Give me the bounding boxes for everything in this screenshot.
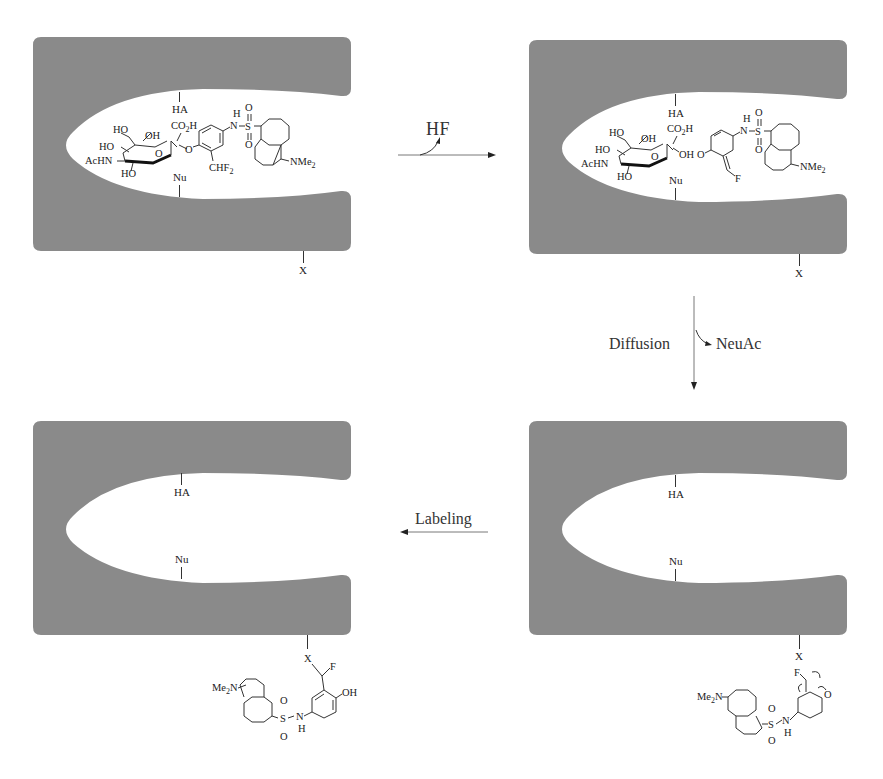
svg-text:Me2N: Me2N — [212, 682, 238, 696]
svg-text:F: F — [330, 661, 336, 672]
svg-text:H: H — [298, 723, 306, 734]
svg-text:N: N — [296, 711, 304, 722]
svg-text:O: O — [280, 695, 288, 706]
svg-text:X: X — [304, 653, 312, 664]
svg-text:OH: OH — [342, 687, 358, 698]
svg-text:O: O — [280, 731, 288, 742]
svg-text:S: S — [280, 713, 286, 724]
labeled-adduct-structure: X F OH N H S O O Me2N — [0, 0, 883, 779]
